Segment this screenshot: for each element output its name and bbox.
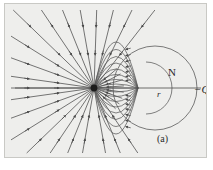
field-arrow bbox=[107, 90, 112, 91]
field-arrow bbox=[24, 97, 29, 98]
radius-label: r bbox=[157, 90, 161, 99]
field-arrow bbox=[68, 23, 70, 28]
field-arrow bbox=[54, 93, 59, 94]
field-arrow bbox=[55, 64, 59, 67]
field-arrow bbox=[82, 22, 83, 27]
field-arrow bbox=[27, 24, 31, 28]
field-arrow bbox=[72, 139, 74, 144]
field-arrow bbox=[25, 45, 29, 48]
field-arrow bbox=[87, 50, 88, 55]
field-arrow bbox=[128, 139, 131, 143]
field-arrow bbox=[124, 23, 126, 28]
figure-caption: (a) bbox=[157, 134, 168, 144]
field-arrow bbox=[57, 52, 61, 55]
field-arrow bbox=[54, 74, 59, 76]
field-arrow bbox=[103, 139, 104, 144]
field-arrow bbox=[79, 51, 81, 56]
field-arrow bbox=[54, 82, 59, 83]
field-line bbox=[13, 10, 94, 88]
field-line bbox=[63, 10, 95, 88]
physics-figure: N r −Q (a) bbox=[0, 0, 213, 170]
field-arrow bbox=[25, 129, 29, 132]
field-arrow bbox=[106, 92, 111, 94]
field-arrow bbox=[55, 110, 59, 113]
field-arrow bbox=[25, 63, 30, 65]
field-line bbox=[94, 10, 97, 88]
field-line-diagram bbox=[5, 4, 207, 158]
field-arrow bbox=[25, 112, 30, 114]
field-arrow bbox=[142, 23, 145, 27]
field-arrow bbox=[84, 139, 85, 144]
radial-field-lines bbox=[11, 10, 155, 153]
field-arrow bbox=[81, 115, 83, 120]
field-arrow bbox=[38, 139, 42, 143]
field-line bbox=[11, 76, 94, 88]
field-arrow bbox=[62, 115, 66, 119]
field-line bbox=[41, 10, 94, 88]
field-arrow bbox=[24, 78, 29, 79]
field-line bbox=[11, 88, 94, 100]
field-arrow bbox=[115, 139, 117, 144]
field-arrow bbox=[73, 115, 76, 119]
field-direction-arrows bbox=[24, 22, 144, 143]
field-line bbox=[50, 88, 94, 153]
figure-panel: N r −Q (a) bbox=[4, 3, 207, 158]
field-arrow bbox=[54, 101, 59, 103]
field-arrow bbox=[99, 115, 100, 120]
field-arrow bbox=[126, 127, 131, 128]
field-arrow bbox=[126, 48, 131, 49]
field-arrow bbox=[69, 51, 72, 55]
field-arrow bbox=[57, 139, 60, 143]
sphere-label: N bbox=[168, 67, 176, 78]
field-arrow bbox=[50, 23, 53, 27]
charge-label: −Q bbox=[194, 84, 207, 95]
point-charge-marker bbox=[91, 85, 98, 92]
field-arrow bbox=[88, 115, 89, 120]
